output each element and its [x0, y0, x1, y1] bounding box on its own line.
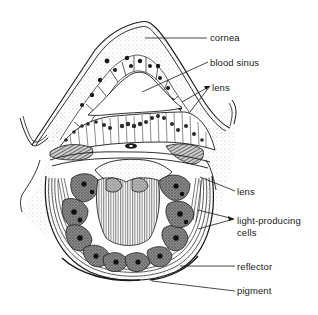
leader-pigment — [152, 281, 235, 291]
label-cornea: cornea — [210, 32, 240, 43]
label-light-producing: light-producing — [237, 215, 301, 226]
label-lens-upper: lens — [212, 82, 230, 93]
label-lens-lower: lens — [237, 186, 255, 197]
upper-lens — [50, 112, 215, 164]
label-cells: cells — [237, 227, 257, 238]
label-pigment: pigment — [237, 285, 272, 296]
label-reflector: reflector — [237, 261, 272, 272]
label-blood-sinus: blood sinus — [210, 57, 259, 68]
